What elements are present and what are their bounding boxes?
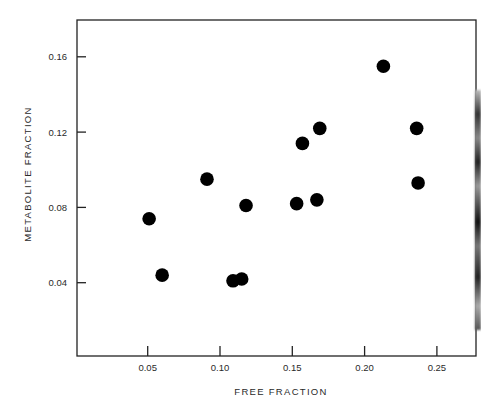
data-point [239, 199, 253, 213]
x-tick-label: 0.25 [428, 362, 447, 373]
y-tick-label: 0.16 [49, 51, 68, 62]
scatter-chart: 0.050.100.150.200.25 0.040.080.120.16 FR… [0, 0, 481, 405]
data-point [142, 212, 156, 226]
data-point [155, 268, 169, 282]
x-tick-label: 0.20 [355, 362, 374, 373]
data-points [142, 59, 425, 287]
x-axis-ticks: 0.050.100.150.200.25 [138, 346, 446, 373]
data-point [410, 122, 424, 136]
page-binding-shadow [475, 90, 481, 330]
y-axis-title: METABOLITE FRACTION [22, 106, 33, 241]
data-point [411, 176, 425, 190]
data-point [200, 172, 214, 186]
y-tick-label: 0.12 [49, 127, 68, 138]
data-point [235, 272, 249, 286]
x-axis-title: FREE FRACTION [234, 386, 327, 397]
data-point [310, 193, 324, 207]
data-point [377, 59, 391, 73]
data-point [313, 122, 327, 136]
data-point [296, 137, 310, 151]
x-tick-label: 0.05 [138, 362, 157, 373]
x-tick-label: 0.10 [211, 362, 230, 373]
x-tick-label: 0.15 [283, 362, 302, 373]
y-axis-ticks: 0.040.080.120.16 [49, 51, 87, 288]
data-point [290, 197, 304, 211]
y-tick-label: 0.04 [49, 277, 68, 288]
y-tick-label: 0.08 [49, 202, 68, 213]
